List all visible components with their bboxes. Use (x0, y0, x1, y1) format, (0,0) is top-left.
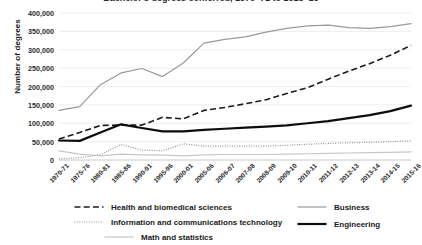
legend-item-label: Health and biomedical sciences (111, 203, 232, 212)
legend-swatch-solid-gray (297, 202, 327, 212)
series-line-health-and-biomedical-sciences (59, 45, 411, 139)
legend-item[interactable]: Business (297, 200, 380, 214)
x-axis-tick-label: 1995-96 (150, 162, 173, 185)
x-axis-tick-label: 2010-11 (295, 162, 318, 185)
legend-swatch-dashed-black (74, 202, 104, 212)
x-axis-tick-label: 2000-01 (171, 162, 194, 185)
y-axis-tick-label: 200,000 (28, 82, 54, 91)
x-axis-tick-label: 2009-10 (274, 162, 297, 185)
y-axis-tick-label: 300,000 (28, 45, 54, 54)
x-axis-tick-label: 2007-08 (233, 162, 256, 185)
x-axis-tick-label: 1990-91 (129, 162, 152, 185)
series-lines (59, 24, 411, 159)
legend-column-left: Health and biomedical sciencesInformatio… (74, 200, 282, 245)
y-axis-tick-label: 0 (50, 156, 54, 165)
x-axis-tick-label: 2015-16 (399, 162, 422, 185)
x-axis-tick-labels: 1970-711975-761980-811985-861990-911995-… (59, 162, 411, 202)
legend-item[interactable]: Information and communications technolog… (74, 215, 282, 229)
series-line-business (59, 24, 411, 111)
legend-item-label: Math and statistics (141, 233, 213, 242)
x-axis-tick-label: 2005-06 (192, 162, 215, 185)
y-axis-tick-label: 350,000 (28, 27, 54, 36)
x-axis-tick-label: 2012-13 (336, 162, 359, 185)
series-line-information-and-communications-technology (59, 141, 411, 159)
chart-title: Bachelor's degrees conferred, 1970–71 to… (0, 0, 422, 3)
x-axis-tick-label: 2008-09 (254, 162, 277, 185)
y-axis-tick-labels: 050,000100,000150,000200,000250,000300,0… (0, 0, 58, 175)
series-line-math-and-statistics (59, 151, 411, 156)
legend-swatch-solid-lightgray (104, 232, 134, 242)
y-axis-tick-label: 400,000 (28, 9, 54, 18)
chart-legend: Health and biomedical sciencesInformatio… (0, 200, 422, 245)
y-axis-tick-label: 250,000 (28, 64, 54, 73)
legend-swatch-solid-black-thick (297, 219, 327, 229)
x-axis-tick-label: 1980-81 (88, 162, 111, 185)
legend-item-label: Business (334, 203, 370, 212)
legend-item-label: Information and communications technolog… (111, 218, 282, 227)
plot-area (59, 13, 411, 160)
x-axis-tick-label: 2014-15 (378, 162, 401, 185)
legend-column-right: BusinessEngineering (297, 200, 380, 234)
x-axis-tick-label: 1985-86 (109, 162, 132, 185)
y-axis-tick-label: 100,000 (28, 119, 54, 128)
x-axis-tick-label: 2006-07 (212, 162, 235, 185)
gridlines (59, 13, 411, 160)
legend-item[interactable]: Health and biomedical sciences (74, 200, 282, 214)
x-axis-tick-label: 1975-76 (67, 162, 90, 185)
legend-item-label: Engineering (334, 220, 380, 229)
x-axis-tick-label: 2013-14 (357, 162, 380, 185)
legend-swatch-dotted-gray (74, 217, 104, 227)
x-axis-tick-label: 2011-12 (316, 162, 339, 185)
plot-svg (59, 13, 411, 160)
legend-item[interactable]: Engineering (297, 217, 380, 231)
legend-item[interactable]: Math and statistics (104, 230, 282, 244)
y-axis-tick-label: 150,000 (28, 100, 54, 109)
chart-container: Bachelor's degrees conferred, 1970–71 to… (0, 0, 422, 245)
y-axis-tick-label: 50,000 (32, 137, 54, 146)
